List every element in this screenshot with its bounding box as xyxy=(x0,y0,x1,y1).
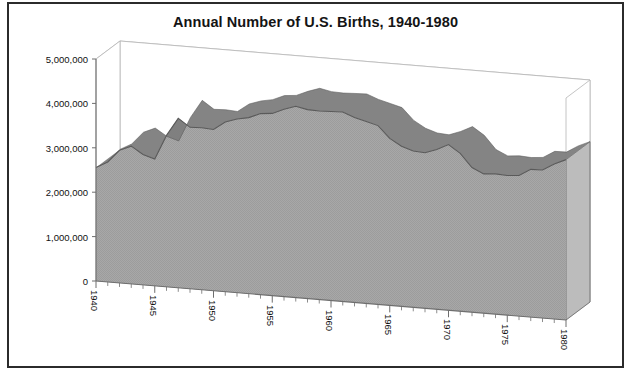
x-axis-tick-label: 1945 xyxy=(148,295,159,316)
x-axis-tick-label: 1975 xyxy=(500,324,511,345)
y-axis-tick-label: 4,000,000 xyxy=(0,98,88,109)
chart-plot-area xyxy=(0,0,631,377)
y-axis-tick-label: 2,000,000 xyxy=(0,187,88,198)
y-axis-tick-label: 5,000,000 xyxy=(0,54,88,65)
y-axis-tick-label: 0 xyxy=(0,276,88,287)
x-axis-tick-label: 1950 xyxy=(207,300,218,321)
x-axis-tick-label: 1965 xyxy=(383,314,394,335)
x-axis-tick-label: 1955 xyxy=(265,305,276,326)
y-axis-tick-label: 3,000,000 xyxy=(0,142,88,153)
y-axis-tick-label: 1,000,000 xyxy=(0,231,88,242)
figure-container: Annual Number of U.S. Births, 1940-1980 … xyxy=(0,0,631,377)
x-axis-tick-label: 1980 xyxy=(559,329,570,350)
x-axis-tick-label: 1970 xyxy=(442,319,453,340)
x-axis-tick-label: 1940 xyxy=(89,290,100,311)
x-axis-tick-label: 1960 xyxy=(324,310,335,331)
